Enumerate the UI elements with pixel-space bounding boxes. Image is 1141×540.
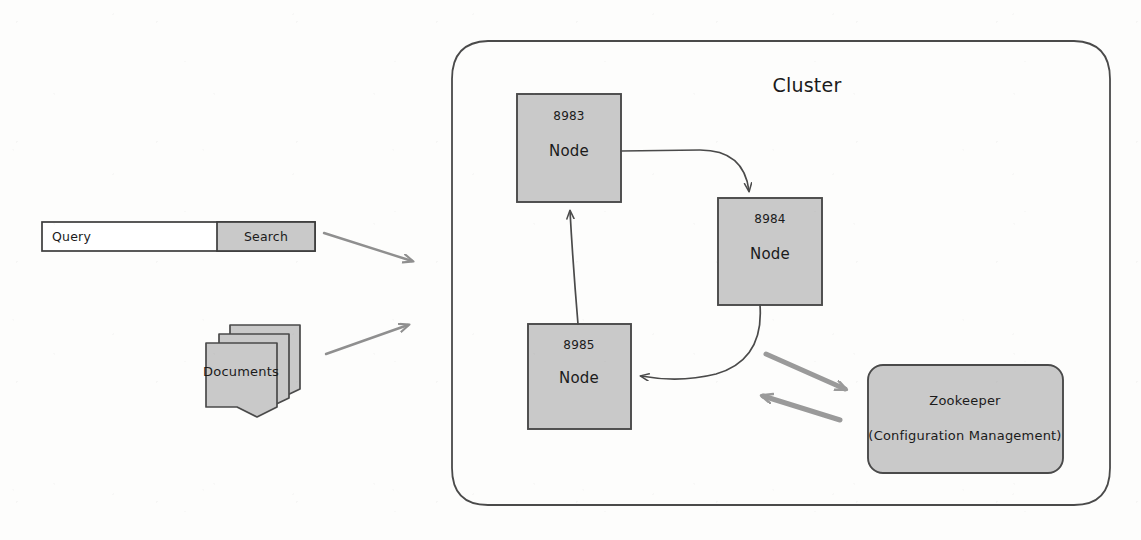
zookeeper-shape[interactable] [868,365,1063,473]
zookeeper-subtitle: (Configuration Management) [868,428,1061,443]
cluster-title: Cluster [773,74,842,96]
documents-label: Documents [203,364,279,379]
arrow-documents-to-cluster [326,325,408,354]
connector-8984-to-8985 [641,305,760,379]
arrow-zookeeper-to-cluster [763,396,840,420]
node-8984-label: Node [750,245,790,263]
zookeeper-title: Zookeeper [929,393,1000,408]
connector-8983-to-8984 [621,150,749,191]
diagram-canvas: Cluster 8983 Node 8984 Node 8985 Node Zo… [0,0,1141,540]
node-8985-label: Node [559,369,599,387]
node-8985-port: 8985 [563,338,594,352]
node-8983-label: Node [549,142,589,160]
diagram-vector-layer [0,0,1141,540]
search-button-label[interactable]: Search [244,229,288,244]
arrow-cluster-to-zookeeper [766,354,845,389]
node-8984-port: 8984 [754,212,785,226]
connector-8985-to-8983 [570,211,578,324]
search-input-value[interactable]: Query [52,229,91,244]
node-8983-port: 8983 [553,109,584,123]
arrow-query-to-cluster [324,233,412,261]
